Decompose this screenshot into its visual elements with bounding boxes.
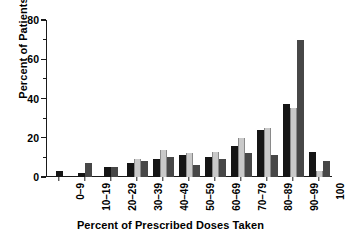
y-tick-label: 60: [27, 53, 39, 65]
bar-group: [124, 20, 150, 177]
x-tick-label: 0–9: [76, 181, 86, 200]
x-tick-label: 30–39: [154, 181, 164, 211]
bar: [245, 153, 252, 177]
y-tick-label: 20: [27, 132, 39, 144]
bar: [219, 159, 226, 177]
x-tick-label-wrap: 30–39: [154, 181, 164, 214]
bar-group: [280, 20, 306, 177]
bar: [127, 163, 134, 177]
bar: [264, 128, 271, 177]
bar: [283, 104, 290, 177]
x-tick-label-wrap: 60–69: [232, 181, 242, 214]
x-axis-title: Percent of Prescribed Doses Taken: [0, 219, 341, 231]
bar: [186, 153, 193, 177]
x-tick-label: 70–79: [258, 181, 268, 211]
bar: [104, 167, 111, 177]
bar-group: [150, 20, 176, 177]
x-tick-label: 100: [336, 181, 346, 200]
plot-area: 020406080: [46, 20, 332, 177]
x-tick-label: 90–99: [310, 181, 320, 211]
x-tick-label-wrap: 50–59: [206, 181, 216, 214]
bar: [111, 167, 118, 177]
bar-group: [306, 20, 332, 177]
bar: [141, 161, 148, 177]
bar-group: [98, 20, 124, 177]
bar: [193, 165, 200, 177]
bar-group: [72, 20, 98, 177]
bar: [160, 150, 167, 177]
x-tick-label: 60–69: [232, 181, 242, 211]
bar: [309, 152, 316, 178]
bar-groups: [46, 20, 332, 177]
x-tick-label-wrap: 100: [336, 181, 346, 214]
bar: [134, 159, 141, 177]
bar: [167, 157, 174, 177]
bar: [153, 159, 160, 177]
y-tick-label: 0: [33, 171, 39, 183]
bar: [179, 155, 186, 177]
bar-group: [254, 20, 280, 177]
x-tick-label-wrap: 80–89: [284, 181, 294, 214]
bar: [231, 146, 238, 177]
x-tick-label: 10–19: [102, 181, 112, 211]
bar: [297, 40, 304, 177]
bar: [323, 161, 330, 177]
x-tick-label-wrap: 20–29: [128, 181, 138, 214]
bar: [271, 155, 278, 177]
x-tick-label: 50–59: [206, 181, 216, 211]
bar: [212, 152, 219, 178]
x-tick-label-wrap: 70–79: [258, 181, 268, 214]
x-tick-label: 40–49: [180, 181, 190, 211]
bar-group: [46, 20, 72, 177]
x-tick-label-wrap: 10–19: [102, 181, 112, 214]
bar-group: [202, 20, 228, 177]
bar-group: [228, 20, 254, 177]
bar: [257, 130, 264, 177]
bar-group: [176, 20, 202, 177]
bar: [238, 138, 245, 177]
bar: [205, 157, 212, 177]
x-tick-label: 80–89: [284, 181, 294, 211]
bar: [85, 163, 92, 177]
bar: [290, 108, 297, 177]
x-tick-label: 20–29: [128, 181, 138, 211]
x-tick-label-wrap: 40–49: [180, 181, 190, 214]
y-tick-label: 80: [27, 14, 39, 26]
x-axis-category-labels: 0–910–1920–2930–3940–4950–5960–6970–7980…: [46, 181, 332, 214]
x-tick-label-wrap: 0–9: [76, 181, 86, 214]
y-tick-label: 40: [27, 93, 39, 105]
x-tick-label-wrap: 90–99: [310, 181, 320, 214]
